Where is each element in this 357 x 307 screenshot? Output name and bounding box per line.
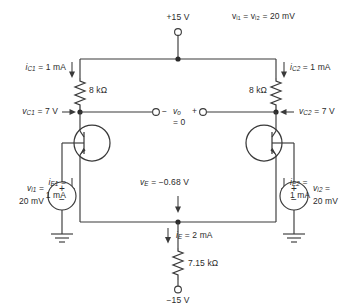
common-mode-input-note: vᵢ₁ = vᵢ₂ = 20 mV [232, 11, 295, 22]
source-vi2-minus-sign: − [284, 195, 304, 206]
voltage-label-vc1: vC1 = 7 V [2, 106, 58, 119]
circuit-schematic-svg [0, 0, 357, 307]
supply-label-negative: −15 V [152, 295, 204, 306]
current-arrow-ic2 [281, 72, 287, 79]
current-label-ic1: iC1 = 1 mA [10, 62, 66, 75]
output-polarity-minus: − [162, 106, 167, 117]
output-terminal-left [153, 109, 160, 116]
voltage-arrow-ve [175, 207, 181, 214]
npn-emitter-arrow-q2 [270, 148, 275, 155]
junction-top-rail [175, 56, 180, 61]
voltage-arrow-vc1 [70, 109, 77, 115]
current-label-ie: iE = 2 mA [176, 230, 213, 243]
voltage-label-ve: vE = −0.68 V [140, 177, 189, 190]
circuit-diagram-canvas: +15 V −15 V vᵢ₁ = vᵢ₂ = 20 mV iC1 = 1 mA… [0, 0, 357, 307]
npn-emitter-arrow-q1 [80, 148, 85, 155]
voltage-arrow-vc2 [280, 109, 287, 115]
output-value-vo: = 0 [173, 117, 185, 128]
source-vi1-minus-sign: − [52, 195, 72, 206]
resistor-label-re: 7.15 kΩ [188, 258, 218, 269]
current-label-ic2: iC2 = 1 mA [290, 62, 331, 75]
supply-terminal-negative [175, 286, 182, 293]
voltage-label-vc2: vC2 = 7 V [299, 106, 335, 119]
positive-supply-branch [80, 29, 276, 62]
output-polarity-plus: + [192, 106, 197, 117]
source-label-vi2: vi2 =20 mV [313, 183, 338, 206]
current-arrow-ie [165, 237, 171, 244]
current-arrow-ic1 [69, 72, 75, 79]
source-vi1-plus-sign: + [52, 184, 72, 195]
source-label-vi1: vi1 =20 mV [0, 183, 44, 206]
resistor-label-rc1: 8 kΩ [89, 85, 107, 96]
source-vi2-plus-sign: + [284, 184, 304, 195]
resistor-label-rc2: 8 kΩ [215, 85, 267, 96]
output-terminal-right [200, 109, 207, 116]
supply-label-positive: +15 V [152, 12, 204, 23]
supply-terminal-positive [175, 29, 182, 36]
